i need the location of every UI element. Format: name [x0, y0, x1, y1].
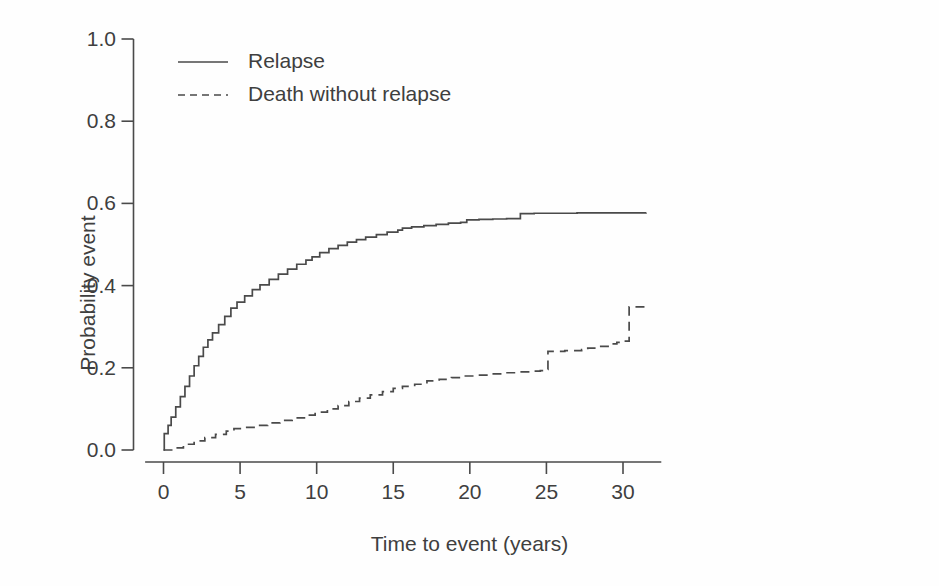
survival-curve-figure: 0.00.20.40.60.81.0051015202530 Probabili…: [0, 0, 939, 586]
series-line-relapse: [164, 212, 646, 450]
x-tick-label-4: 20: [458, 480, 481, 504]
x-axis-title: Time to event (years): [0, 532, 939, 556]
y-tick-label-5: 1.0: [60, 27, 116, 51]
y-tick-label-0: 0.0: [60, 438, 116, 462]
y-axis-title: Probability event: [76, 215, 100, 370]
y-tick-label-4: 0.8: [60, 109, 116, 133]
legend-sample-lines: [178, 62, 228, 95]
x-tick-label-6: 30: [611, 480, 634, 504]
legend-label-0: Relapse: [248, 49, 325, 73]
x-tick-label-5: 25: [535, 480, 558, 504]
y-tick-label-3: 0.6: [60, 191, 116, 215]
x-tick-label-1: 5: [234, 480, 246, 504]
series-group: [164, 212, 646, 450]
legend-label-1: Death without relapse: [248, 82, 451, 106]
x-tick-label-0: 0: [158, 480, 170, 504]
x-tick-label-2: 10: [305, 480, 328, 504]
x-tick-label-3: 15: [382, 480, 405, 504]
series-line-death-without-relapse: [164, 306, 646, 450]
